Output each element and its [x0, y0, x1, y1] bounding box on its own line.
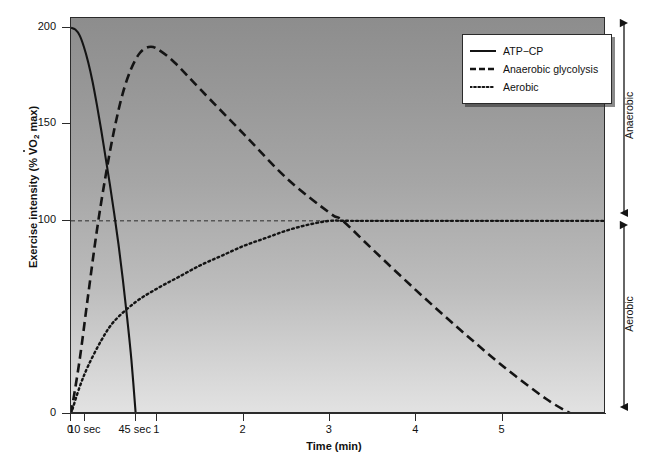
intensity-zone-annotations: Anaerobic Aerobic — [606, 17, 652, 413]
x-tick-label: 3 — [326, 423, 332, 435]
v-dot-notation: V — [27, 148, 39, 155]
y-axis-title-prefix: Exercise intensity (% — [27, 155, 39, 268]
x-tick — [329, 414, 330, 421]
x-tick-label: 45 sec — [118, 423, 150, 435]
x-tick-label: 4 — [412, 423, 418, 435]
legend-item: Anaerobic glycolysis — [470, 60, 603, 78]
legend-label-anaerobic-glycolysis: Anaerobic glycolysis — [503, 64, 598, 75]
x-tick — [415, 414, 416, 421]
x-tick — [502, 414, 503, 421]
legend-key-dotted-icon — [470, 82, 496, 92]
y-axis-line — [70, 17, 71, 413]
legend-item: ATP−CP — [470, 42, 603, 60]
v-dot-icon — [23, 150, 25, 152]
legend-key-dashed-icon — [470, 64, 496, 74]
legend-item: Aerobic — [470, 78, 603, 96]
zone-label-aerobic: Aerobic — [623, 291, 635, 337]
zone-label-anaerobic: Anaerobic — [623, 93, 635, 139]
legend: ATP−CP Anaerobic glycolysis Aerobic — [462, 34, 612, 104]
x-tick — [243, 414, 244, 421]
chart-figure: 0100150200 Exercise intensity (% VO2 max… — [0, 0, 652, 475]
y-axis-title-o: O — [27, 139, 39, 148]
y-axis-title: Exercise intensity (% VO2 max) — [27, 57, 41, 317]
x-axis-title: Time (min) — [306, 440, 361, 452]
x-tick-label: 10 sec — [68, 423, 100, 435]
x-tick — [84, 414, 85, 421]
y-tick — [62, 220, 70, 221]
x-tick-label: 1 — [153, 423, 159, 435]
legend-label-aerobic: Aerobic — [503, 82, 539, 93]
y-tick — [62, 123, 70, 124]
y-tick-label: 200 — [4, 20, 56, 32]
x-tick-label: 2 — [240, 423, 246, 435]
y-axis-title-suffix: max) — [27, 106, 39, 135]
y-axis-title-v: V — [27, 148, 39, 155]
x-tick — [70, 414, 71, 421]
x-axis-line — [70, 413, 606, 414]
legend-label-atp-cp: ATP−CP — [503, 46, 543, 57]
x-tick — [156, 414, 157, 421]
zone-arrows-icon — [606, 17, 652, 413]
y-axis-title-sub: 2 — [32, 135, 41, 139]
legend-key-solid-icon — [470, 46, 496, 56]
x-tick-label: 5 — [498, 423, 504, 435]
x-tick — [135, 414, 136, 421]
y-tick — [62, 27, 70, 28]
y-tick — [62, 413, 70, 414]
y-tick-label: 0 — [4, 406, 56, 418]
